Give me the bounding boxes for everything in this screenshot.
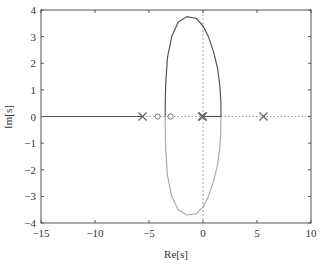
zero-marker bbox=[155, 114, 160, 119]
y-tick-label: 2 bbox=[31, 57, 37, 69]
x-tick-label: 10 bbox=[306, 227, 318, 239]
x-tick-label: −10 bbox=[86, 227, 104, 239]
y-axis-label: Im[s] bbox=[2, 105, 14, 129]
y-tick-label: 0 bbox=[31, 111, 37, 123]
root-locus-chart: −15−10−50510−4−3−2−101234 Re[s] Im[s] bbox=[0, 0, 325, 265]
locus-lower-branch bbox=[165, 117, 221, 216]
x-tick-label: 0 bbox=[200, 227, 206, 239]
y-tick-label: −2 bbox=[24, 164, 36, 176]
x-tick-label: −5 bbox=[143, 227, 155, 239]
locus-upper-branch bbox=[165, 17, 221, 117]
y-tick-label: 3 bbox=[31, 31, 37, 43]
zero-marker bbox=[168, 114, 173, 119]
y-tick-label: −1 bbox=[24, 137, 36, 149]
x-axis-label: Re[s] bbox=[164, 248, 188, 260]
y-tick-label: −4 bbox=[24, 217, 36, 229]
y-tick-label: −3 bbox=[24, 190, 36, 202]
x-tick-label: 5 bbox=[254, 227, 260, 239]
plot-area bbox=[41, 10, 311, 223]
y-tick-label: 4 bbox=[31, 4, 37, 16]
y-tick-label: 1 bbox=[31, 84, 37, 96]
